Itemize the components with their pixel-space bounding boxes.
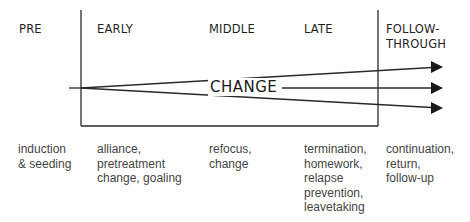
phase-label-late: LATE <box>304 22 333 37</box>
phase-label-pre: PRE <box>19 22 42 37</box>
change-label: CHANGE <box>208 78 279 96</box>
phase-description-early: alliance, pretreatment change, goaling <box>97 142 182 186</box>
middle-arrowhead-icon <box>431 82 443 94</box>
phase-label-middle: MIDDLE <box>209 22 255 37</box>
upper-arrowhead-icon <box>431 61 443 73</box>
phase-description-late: termination, homework, relapse preventio… <box>304 142 367 215</box>
phase-label-early: EARLY <box>97 22 133 37</box>
phase-description-follow-through: continuation, return, follow-up <box>386 142 454 186</box>
lower-arrowhead-icon <box>431 102 443 114</box>
phase-description-middle: refocus, change <box>209 142 252 171</box>
phase-label-follow-through: FOLLOW- THROUGH <box>386 22 446 52</box>
phase-description-pre: induction & seeding <box>18 142 71 171</box>
therapy-phases-diagram: CHANGE PRE EARLY MIDDLE LATE FOLLOW- THR… <box>0 0 470 222</box>
